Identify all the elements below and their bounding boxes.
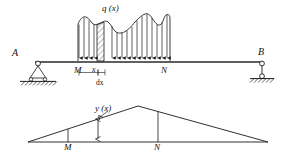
load-curve-qx [78,14,170,61]
support-b-link [250,61,274,83]
label-ordinate-yx: y (x) [95,104,111,113]
label-element-dx: dx [96,79,104,87]
influence-line-group [28,106,268,142]
influence-triangle [28,106,268,142]
label-point-m-bottom: M [64,143,72,152]
figure-canvas [0,0,281,160]
dimension-dx [98,70,105,76]
label-support-b: B [258,47,264,57]
beam-group [20,14,274,86]
label-distance-x: x [92,66,96,74]
label-load-function: q (x) [102,4,119,13]
label-point-n-bottom: N [154,143,160,152]
element-strip-dx [97,22,104,61]
beam-influence-line-figure: A B q (x) M N x dx y (x) M N [0,0,281,160]
label-point-n-top: N [161,66,167,75]
label-support-a: A [12,48,18,58]
support-a-pin [20,61,57,85]
label-point-m-top: M [74,66,82,75]
